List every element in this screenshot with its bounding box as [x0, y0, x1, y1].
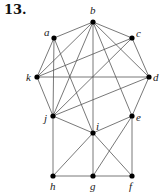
edge-i-h	[53, 133, 93, 176]
vertex-d	[146, 74, 151, 79]
vertex-label-g: g	[90, 180, 96, 192]
edge-c-d	[132, 38, 149, 77]
vertex-j	[50, 113, 55, 118]
vertex-label-e: e	[136, 111, 141, 123]
vertex-label-b: b	[90, 4, 96, 16]
vertex-k	[34, 74, 39, 79]
vertex-label-c: c	[136, 27, 141, 39]
vertex-label-j: j	[42, 112, 47, 124]
vertex-c	[129, 35, 134, 40]
vertex-label-k: k	[26, 71, 32, 83]
vertex-label-d: d	[153, 71, 159, 83]
edge-i-f	[93, 133, 132, 176]
vertex-g	[90, 173, 95, 178]
edge-k-j	[37, 77, 53, 116]
edge-b-e	[93, 22, 132, 116]
vertex-h	[50, 173, 55, 178]
vertex-label-i: i	[96, 120, 99, 132]
vertex-b	[90, 19, 95, 24]
vertex-i	[90, 130, 95, 135]
graph-diagram: abcdkjiehgf	[0, 0, 164, 196]
vertex-e	[129, 113, 134, 118]
vertex-label-h: h	[50, 180, 56, 192]
vertex-f	[129, 173, 134, 178]
vertex-label-a: a	[44, 26, 50, 38]
vertex-a	[51, 35, 56, 40]
vertex-label-f: f	[129, 180, 134, 192]
